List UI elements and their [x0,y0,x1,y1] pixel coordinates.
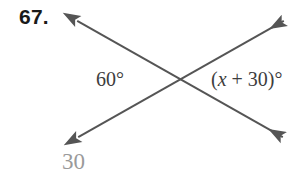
angle-label-right-suffix: + 30)° [227,68,283,90]
figure-page: 67. 60° (x + 30)° 30 [0,0,305,173]
angle-label-right-prefix: ( [211,68,218,90]
angle-label-left: 60° [96,68,124,90]
answer-annotation: 30 [62,149,85,173]
angle-label-right: (x + 30)° [211,68,283,90]
angle-label-right-variable: x [218,68,227,90]
